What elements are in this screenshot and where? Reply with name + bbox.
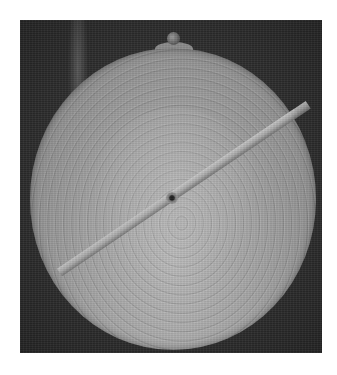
photograph	[20, 20, 322, 353]
suspension-knob	[167, 32, 180, 45]
center-pin	[166, 192, 178, 204]
